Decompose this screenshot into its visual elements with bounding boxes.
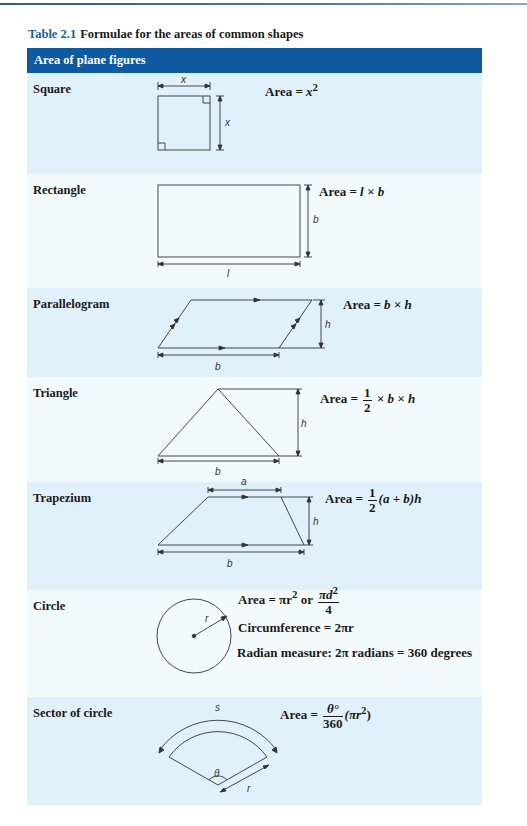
sector-diagram: s θ r	[155, 697, 295, 805]
label-bottom: l	[227, 268, 230, 279]
sector-formula: Area = θ°360(πr2)	[280, 702, 371, 730]
row-label: Sector of circle	[33, 706, 112, 721]
circumference-formula: Circumference = 2πr	[238, 620, 354, 636]
table-number: Table 2.1	[28, 27, 76, 41]
label-top: x	[180, 74, 187, 85]
radian-formula: Radian measure: 2π radians = 360 degrees	[237, 645, 472, 661]
row-label: Square	[33, 82, 71, 97]
label-angle: θ	[214, 768, 220, 779]
label-top: a	[241, 476, 247, 487]
parallelogram-formula: Area = b × h	[343, 297, 412, 313]
label-side: h	[325, 319, 331, 330]
row-label: Triangle	[33, 386, 78, 401]
table-row-parallelogram: Parallelogram b h Area = b × h	[27, 288, 482, 377]
label-bottom: b	[215, 466, 221, 477]
square-diagram: x x	[155, 73, 255, 174]
top-rule	[0, 3, 527, 5]
triangle-formula: Area = 12 × b × h	[320, 386, 415, 414]
table-header: Area of plane figures	[27, 48, 482, 73]
formula-table: Area of plane figures Square x x Area = …	[27, 48, 482, 805]
label-bottom: b	[227, 558, 233, 569]
table-title: Formulae for the areas of common shapes	[80, 27, 303, 41]
label-arc: s	[215, 702, 220, 713]
parallelogram-diagram: b h	[155, 288, 355, 377]
label-bottom: b	[215, 361, 221, 372]
label-side: x	[224, 117, 231, 128]
label-side: b	[313, 214, 319, 225]
rectangle-formula: Area = l × b	[319, 184, 384, 200]
row-label: Rectangle	[33, 183, 86, 198]
circle-area-formula: Area = πr2 or πd24	[238, 585, 341, 617]
row-label: Trapezium	[33, 491, 91, 506]
table-caption: Table 2.1Formulae for the areas of commo…	[28, 27, 303, 42]
row-label: Parallelogram	[33, 297, 109, 312]
square-formula: Area = x2	[265, 81, 318, 100]
table-row-trapezium: Trapezium a b h Area = 1	[27, 482, 482, 590]
circle-diagram: r	[155, 590, 245, 697]
trapezium-formula: Area = 12(a + b)h	[325, 486, 421, 514]
row-label: Circle	[33, 599, 65, 614]
label-radius: r	[247, 783, 251, 794]
label-radius: r	[205, 613, 209, 624]
table-row-rectangle: Rectangle l b Area = l × b	[27, 174, 482, 288]
label-side: h	[301, 418, 307, 429]
table-row-square: Square x x Area = x2	[27, 73, 482, 174]
table-row-sector: Sector of circle s θ r Area = θ°360(πr2)	[27, 697, 482, 805]
table-row-circle: Circle r Area = πr2 or πd24 Circumferenc…	[27, 590, 482, 697]
label-side: h	[313, 516, 319, 527]
table-row-triangle: Triangle b h Area = 12 × b × h	[27, 377, 482, 482]
